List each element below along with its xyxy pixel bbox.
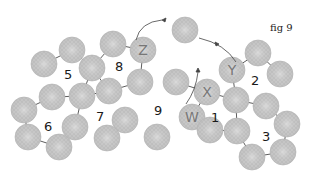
bead: [100, 31, 126, 57]
bead: [223, 87, 249, 113]
bead-letter: X: [202, 84, 212, 100]
bead: [144, 124, 170, 150]
figure-title: fig 9: [270, 22, 293, 33]
region-label: 2: [251, 74, 259, 87]
bead: [39, 84, 65, 110]
bead: [267, 61, 293, 87]
region-label: 3: [262, 130, 270, 143]
region-label: 1: [211, 111, 219, 124]
bead: [59, 37, 85, 63]
bead: [224, 118, 250, 144]
bead: [172, 17, 198, 43]
bead: [94, 125, 120, 151]
region-label: 8: [115, 60, 123, 73]
beadwork-diagram: ZYXW: [0, 0, 312, 181]
bead: [46, 134, 72, 160]
bead-letter: Y: [227, 62, 237, 78]
bead: [11, 97, 37, 123]
bead-y: Y: [219, 57, 245, 83]
bead: [31, 51, 57, 77]
bead: [163, 69, 189, 95]
region-label: 7: [96, 110, 104, 123]
bead: [245, 40, 271, 66]
region-label: 9: [154, 104, 162, 117]
bead: [69, 83, 95, 109]
bead: [253, 93, 279, 119]
bead-group: ZYXW: [11, 17, 300, 170]
bead: [239, 144, 265, 170]
bead: [96, 78, 122, 104]
bead-letter: W: [185, 109, 199, 125]
region-label: 5: [64, 68, 72, 81]
bead: [270, 139, 296, 165]
bead-z: Z: [130, 37, 156, 63]
bead-x: X: [194, 79, 220, 105]
region-label: 6: [44, 120, 52, 133]
bead: [15, 124, 41, 150]
bead: [79, 55, 105, 81]
bead-letter: Z: [138, 42, 148, 58]
bead: [274, 111, 300, 137]
bead: [127, 69, 153, 95]
